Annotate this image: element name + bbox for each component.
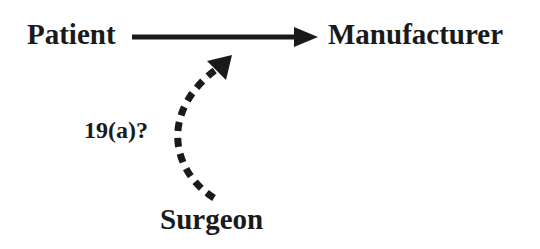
edge-label-19a: 19(a)?	[84, 118, 148, 142]
solid-arrow-patient-to-manufacturer	[132, 27, 318, 47]
dashed-arrow-surgeon-to-link	[178, 55, 232, 198]
surgeon-node: Surgeon	[160, 205, 263, 234]
manufacturer-node: Manufacturer	[328, 20, 503, 49]
patient-node: Patient	[27, 20, 116, 49]
arrowhead-icon	[294, 27, 318, 47]
